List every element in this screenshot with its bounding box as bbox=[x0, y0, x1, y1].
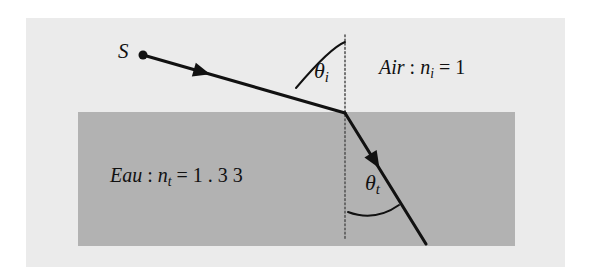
water-equals-sign: = bbox=[172, 164, 193, 186]
water-index-symbol: n bbox=[158, 164, 168, 186]
air-equals-sign: = bbox=[434, 56, 455, 78]
theta-transmitted-symbol: θ bbox=[365, 170, 376, 195]
air-separator: : bbox=[405, 56, 421, 78]
theta-transmitted-subscript: t bbox=[376, 181, 380, 197]
theta-incident-label: θi bbox=[314, 60, 329, 85]
theta-incident-subscript: i bbox=[325, 69, 329, 85]
air-index-value: 1 bbox=[455, 56, 465, 78]
water-separator: : bbox=[142, 164, 158, 186]
air-medium-name: Air bbox=[379, 56, 405, 78]
air-index-symbol: n bbox=[420, 56, 430, 78]
source-point-dot bbox=[139, 51, 148, 60]
theta-incident-symbol: θ bbox=[314, 58, 325, 83]
figure-canvas bbox=[0, 0, 593, 280]
water-medium-label: Eau : nt = 1 . 3 3 bbox=[110, 165, 243, 188]
water-medium-name: Eau bbox=[110, 164, 142, 186]
source-label: S bbox=[118, 41, 129, 62]
refraction-figure: S θi θt Air : ni = 1 Eau : nt = 1 . 3 3 bbox=[0, 0, 593, 280]
theta-transmitted-label: θt bbox=[365, 172, 380, 197]
air-medium-label: Air : ni = 1 bbox=[379, 57, 465, 80]
water-index-value: 1 . 3 3 bbox=[193, 164, 243, 186]
